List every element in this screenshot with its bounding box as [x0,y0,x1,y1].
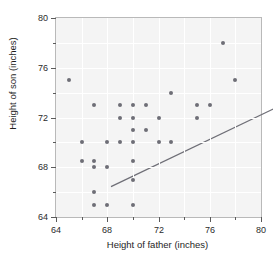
x-axis-tick [56,217,57,222]
gridline-horizontal [56,93,261,94]
x-axis-tick-label: 76 [205,225,215,235]
y-axis-tick [51,167,56,168]
x-axis-minor-tick [184,217,185,220]
x-axis-tick [210,217,211,222]
x-axis-tick-label: 68 [102,225,112,235]
data-point [80,159,84,163]
y-axis-tick [51,68,56,69]
data-point [105,165,109,169]
data-point [105,203,109,207]
x-axis-tick-label: 64 [51,225,61,235]
data-point [169,91,173,95]
data-point [157,116,161,120]
y-axis-tick-label: 80 [38,13,48,23]
data-point [144,128,148,132]
y-axis-minor-tick [53,192,56,193]
gridline-horizontal [56,43,261,44]
x-axis-tick-label: 72 [154,225,164,235]
y-axis-tick [51,118,56,119]
data-point [157,140,161,144]
x-axis-tick [159,217,160,222]
x-axis-tick-label: 80 [256,225,266,235]
x-axis-minor-tick [133,217,134,220]
gridline-horizontal [56,68,261,69]
data-point [195,116,199,120]
data-point [131,128,135,132]
data-point [208,103,212,107]
y-axis-minor-tick [53,142,56,143]
data-point [67,78,71,82]
data-point [144,103,148,107]
data-point [131,103,135,107]
y-axis-minor-tick [53,43,56,44]
y-axis-title: Height of son (inches) [7,14,18,154]
data-point [131,159,135,163]
gridline-horizontal [56,167,261,168]
x-axis-tick [107,217,108,222]
data-point [131,116,135,120]
x-axis-minor-tick [82,217,83,220]
data-point [131,178,135,182]
x-axis-tick [261,217,262,222]
y-axis-tick [51,18,56,19]
data-point [92,190,96,194]
y-axis-tick-label: 76 [38,63,48,73]
x-axis-minor-tick [235,217,236,220]
plot-area: 64687276806468727680 [55,17,262,218]
data-point [92,159,96,163]
y-axis-tick-label: 64 [38,212,48,222]
data-point [118,116,122,120]
regression-line [111,35,273,234]
data-point [92,165,96,169]
data-point [195,103,199,107]
data-point [92,203,96,207]
x-axis-title: Height of father (inches) [55,239,260,250]
scatter-plot-figure: 64687276806468727680 Height of father (i… [0,0,273,262]
data-point [105,140,109,144]
y-axis-tick-label: 72 [38,113,48,123]
gridline-horizontal [56,192,261,193]
data-point [131,203,135,207]
y-axis-tick-label: 68 [38,162,48,172]
data-point [221,41,225,45]
data-point [92,103,96,107]
y-axis-minor-tick [53,93,56,94]
